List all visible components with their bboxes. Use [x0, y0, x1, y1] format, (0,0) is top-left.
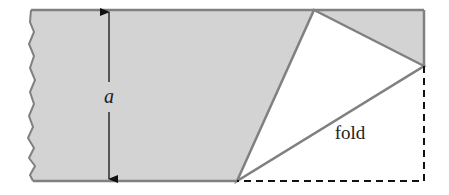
folded-paper-diagram: a fold [0, 0, 449, 195]
dimension-label-a: a [104, 85, 114, 107]
fold-label: fold [335, 122, 366, 143]
